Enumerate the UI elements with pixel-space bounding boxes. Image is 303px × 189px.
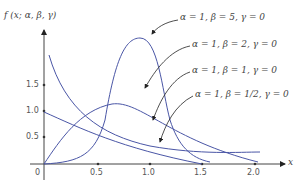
curve-beta-2 bbox=[44, 104, 258, 164]
y-tick: 0.5 bbox=[26, 132, 39, 141]
y-tick: 1.5 bbox=[26, 80, 39, 89]
origin-label: 0 bbox=[35, 168, 40, 177]
legend-beta-1: α = 1, β = 1, γ = 0 bbox=[192, 65, 277, 75]
x-tick: 2.0 bbox=[247, 168, 260, 177]
legend-beta-half: α = 1, β = 1/2, γ = 0 bbox=[195, 89, 289, 99]
x-tick: 1.5 bbox=[194, 168, 207, 177]
y-axis-label: f (x; α, β, γ) bbox=[4, 10, 56, 20]
y-tick: 1.0 bbox=[26, 106, 39, 115]
legend-beta-5: α = 1, β = 5, γ = 0 bbox=[180, 12, 265, 22]
x-tick: 1.0 bbox=[142, 168, 155, 177]
legend-beta-2: α = 1, β = 2, γ = 0 bbox=[192, 39, 277, 49]
x-tick: 0.5 bbox=[90, 168, 103, 177]
x-axis-label: x bbox=[288, 157, 293, 167]
